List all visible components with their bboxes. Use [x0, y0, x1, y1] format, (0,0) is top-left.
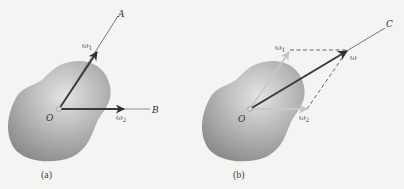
axis-c-label: C	[386, 19, 393, 29]
omega1-label: ω1	[82, 41, 92, 51]
caption-a: (a)	[41, 169, 52, 181]
omega1-label: ω1	[275, 43, 285, 53]
panel-b: C O ω1 ω2 ω (b)	[202, 19, 393, 181]
origin-label: O	[46, 113, 54, 123]
axis-a-label: A	[117, 9, 125, 19]
omega-resultant-label: ω	[350, 53, 357, 62]
omega2-label: ω2	[116, 113, 127, 123]
axis-b-label: B	[151, 105, 159, 115]
origin-label: O	[238, 114, 246, 124]
parallelogram-dash-side	[307, 51, 347, 109]
panel-a: A B O ω1 ω2 (a)	[8, 9, 159, 181]
rotation-vector-figure: A B O ω1 ω2 (a) C O ω1 ω2	[0, 0, 404, 189]
origin-point	[248, 107, 253, 112]
omega2-label: ω2	[299, 113, 310, 123]
origin-point	[57, 107, 62, 112]
rigid-body-blob	[202, 61, 305, 161]
caption-b: (b)	[233, 169, 245, 181]
